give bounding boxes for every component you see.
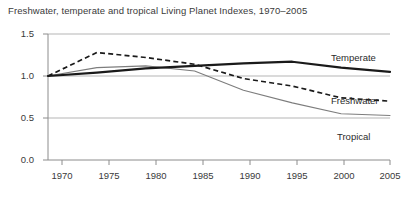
- x-tick-label-2000: 2000: [324, 170, 364, 181]
- y-tick-label-0-5: 0.5: [8, 112, 34, 123]
- x-tick-label-1985: 1985: [183, 170, 223, 181]
- x-tick-label-2005: 2005: [370, 170, 410, 181]
- y-axis-ticks: [43, 34, 48, 160]
- x-tick-label-1980: 1980: [136, 170, 176, 181]
- series-line-temperate: [48, 62, 390, 76]
- x-tick-label-1975: 1975: [89, 170, 129, 181]
- x-tick-label-1995: 1995: [277, 170, 317, 181]
- series-label-tropical: Tropical: [337, 131, 370, 142]
- x-tick-label-1970: 1970: [42, 170, 82, 181]
- chart-figure: Freshwater, temperate and tropical Livin…: [0, 0, 414, 206]
- series-label-temperate: Temperate: [331, 52, 376, 63]
- y-tick-label-1-0: 1.0: [8, 70, 34, 81]
- y-tick-label-1-5: 1.5: [8, 28, 34, 39]
- x-tick-label-1990: 1990: [230, 170, 270, 181]
- series-label-freshwater: Freshwater: [331, 95, 379, 106]
- y-tick-label-0-0: 0.0: [8, 154, 34, 165]
- x-axis-ticks: [62, 160, 390, 165]
